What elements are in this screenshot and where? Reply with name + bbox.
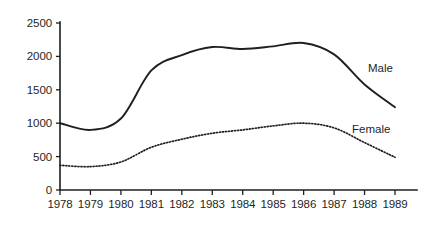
x-tick-label: 1980: [108, 198, 133, 210]
x-tick-label: 1984: [230, 198, 256, 210]
x-tick-label: 1979: [78, 198, 103, 210]
y-axis-tick-labels: 05001000150020002500: [27, 17, 52, 196]
x-tick-label: 1981: [139, 198, 164, 210]
series-line-male: [60, 43, 395, 130]
y-tick-label: 1500: [27, 84, 52, 96]
x-tick-label: 1986: [291, 198, 316, 210]
x-tick-label: 1989: [382, 198, 407, 210]
chart-canvas: 05001000150020002500 1978197919801981198…: [0, 0, 431, 230]
series-line-female: [60, 123, 395, 167]
x-axis-tick-labels: 1978197919801981198219831984198519861987…: [47, 198, 407, 210]
series-label-female: Female: [352, 123, 390, 135]
series-label-male: Male: [368, 62, 393, 74]
chart-axes: [60, 22, 417, 190]
y-tick-label: 2000: [27, 50, 52, 62]
y-tick-label: 2500: [27, 17, 52, 29]
line-chart: 05001000150020002500 1978197919801981198…: [0, 0, 431, 230]
y-tick-label: 1000: [27, 117, 52, 129]
x-tick-label: 1982: [169, 198, 194, 210]
y-tick-label: 500: [33, 151, 52, 163]
x-tick-label: 1988: [352, 198, 377, 210]
x-tick-label: 1985: [261, 198, 286, 210]
x-tick-label: 1978: [47, 198, 72, 210]
x-tick-label: 1987: [321, 198, 346, 210]
x-tick-label: 1983: [200, 198, 225, 210]
y-tick-label: 0: [46, 184, 52, 196]
